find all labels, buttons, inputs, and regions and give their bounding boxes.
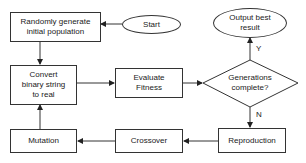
- node-init: Randomly generate initial population: [10, 12, 101, 42]
- node-output: Output best result: [213, 8, 287, 38]
- node-convert-line1: Convert: [22, 70, 66, 80]
- node-reproduction-label: Reproduction: [228, 136, 276, 146]
- node-decision: Generations complete?: [213, 73, 287, 93]
- edge-label-no: N: [256, 110, 262, 119]
- node-convert: Convert binary string to real: [10, 65, 77, 105]
- node-decision-line2: complete?: [213, 83, 287, 93]
- node-start: Start: [122, 15, 181, 34]
- node-evaluate-line1: Evaluate: [133, 73, 164, 83]
- node-mutation-label: Mutation: [28, 136, 59, 146]
- node-reproduction: Reproduction: [218, 128, 286, 153]
- node-mutation: Mutation: [10, 129, 77, 153]
- node-convert-line2: binary string: [22, 80, 66, 90]
- node-crossover-label: Crossover: [131, 136, 167, 146]
- node-evaluate-line2: Fitness: [133, 83, 164, 93]
- node-evaluate: Evaluate Fitness: [115, 68, 183, 98]
- node-start-label: Start: [143, 20, 160, 30]
- node-convert-line3: to real: [22, 90, 66, 100]
- edge-label-yes: Y: [256, 44, 261, 53]
- node-decision-line1: Generations: [213, 73, 287, 83]
- node-init-line2: initial population: [21, 27, 91, 37]
- node-output-line2: result: [229, 23, 270, 33]
- node-output-line1: Output best: [229, 13, 270, 23]
- node-init-line1: Randomly generate: [21, 17, 91, 27]
- node-crossover: Crossover: [115, 129, 183, 153]
